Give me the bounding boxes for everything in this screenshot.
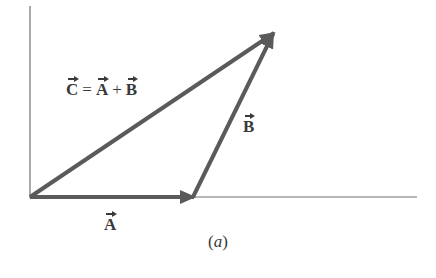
vector-a-symbol: A [96,80,108,100]
vector-c-symbol: C [66,80,78,100]
caption-letter: a [214,232,223,251]
vector-b-symbol: B [126,80,137,100]
figure-caption: (a) [0,232,436,252]
caption-close: ) [222,232,228,251]
vector-c-arrow [30,33,274,197]
plus-sign: + [112,80,122,99]
equals-sign: = [82,80,92,99]
vector-b-text: B [243,117,254,137]
vector-b-label: B [243,117,254,137]
equation-label: C=A+B [66,80,137,100]
